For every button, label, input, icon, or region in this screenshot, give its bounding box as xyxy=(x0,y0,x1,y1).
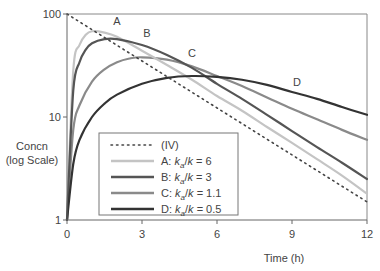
curve-label-c: C xyxy=(188,47,196,59)
y-tick-label: 100 xyxy=(43,8,61,20)
y-tick-label: 1 xyxy=(55,214,61,226)
x-tick-label: 9 xyxy=(289,228,295,240)
x-tick-label: 12 xyxy=(361,228,373,240)
x-axis-title: Time (h) xyxy=(264,252,305,264)
curve-label-d: D xyxy=(293,76,301,88)
y-axis-title: (log Scale) xyxy=(6,154,59,166)
curve-label-a: A xyxy=(113,15,121,27)
legend: (IV)A: ka/k = 6B: ka/k = 3C: ka/k = 1.1D… xyxy=(99,133,238,218)
curve-label-b: B xyxy=(143,27,150,39)
x-tick-label: 0 xyxy=(64,228,70,240)
y-tick-label: 10 xyxy=(49,111,61,123)
legend-label: D: ka/k = 0.5 xyxy=(161,203,221,218)
legend-label: (IV) xyxy=(161,139,179,151)
pk-concentration-chart: ABCD 110100036912Time (h)Concn(log Scale… xyxy=(0,0,380,271)
x-tick-label: 3 xyxy=(139,228,145,240)
y-axis-title: Concn xyxy=(16,140,48,152)
x-tick-label: 6 xyxy=(214,228,220,240)
